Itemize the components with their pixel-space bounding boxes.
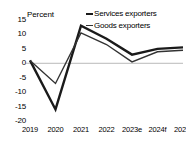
chart-plot-area	[0, 0, 186, 147]
series-lines	[30, 26, 183, 110]
chart-container: Percent 151050-5-10-15-20 20192020202120…	[0, 0, 186, 147]
series-line	[30, 26, 183, 110]
series-line	[30, 33, 183, 84]
